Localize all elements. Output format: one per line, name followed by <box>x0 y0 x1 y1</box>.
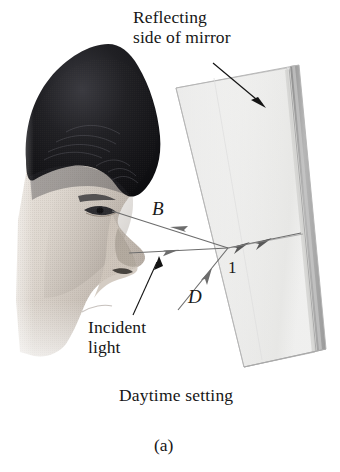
label-ray-b: B <box>152 198 164 220</box>
figure-caption-part-label: (a) <box>154 436 173 456</box>
label-reflecting-side-of-mirror: Reflecting side of mirror <box>133 8 231 47</box>
label-surface-one: 1 <box>228 258 237 278</box>
label-incident-light: Incident light <box>88 318 146 357</box>
label-daytime-setting: Daytime setting <box>119 386 233 406</box>
label-ray-d: D <box>188 286 202 308</box>
